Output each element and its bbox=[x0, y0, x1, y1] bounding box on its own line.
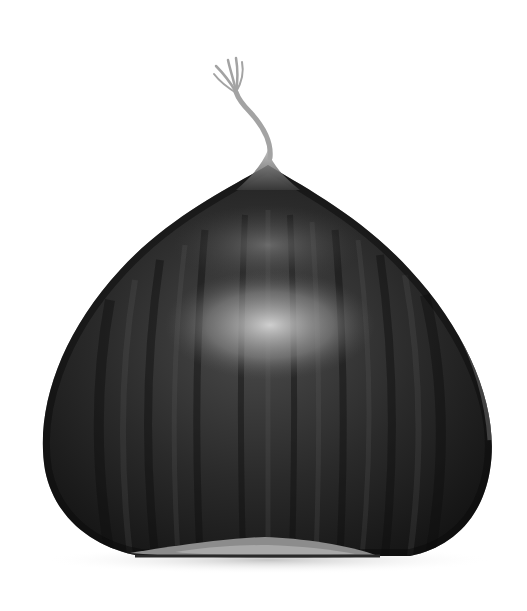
chestnut-tuft bbox=[214, 58, 270, 158]
chestnut-photo bbox=[0, 0, 527, 611]
chestnut-body bbox=[43, 165, 492, 556]
